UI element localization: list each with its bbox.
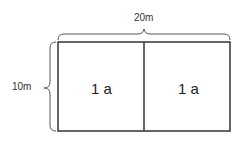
field-diagram <box>0 0 243 142</box>
width-label: 20m <box>134 12 153 23</box>
top-brace <box>58 29 230 40</box>
cell-left-label: 1 a <box>91 80 112 97</box>
left-brace <box>44 42 56 131</box>
height-label: 10m <box>12 81 31 92</box>
cell-right-label: 1 a <box>178 80 199 97</box>
